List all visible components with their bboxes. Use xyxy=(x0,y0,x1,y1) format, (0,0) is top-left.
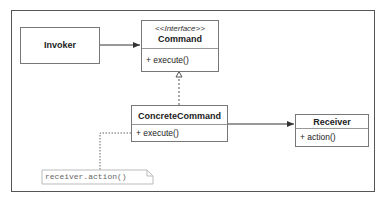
realization-triangle-icon xyxy=(176,72,182,78)
class-name: ConcreteCommand xyxy=(132,111,227,121)
class-command[interactable]: <<Interface>> Command + execute() xyxy=(141,20,219,72)
class-name: Invoker xyxy=(21,28,99,63)
class-name: Command xyxy=(142,34,218,44)
class-name: Receiver xyxy=(296,117,368,127)
stereotype-label: <<Interface>> xyxy=(142,24,218,33)
divider xyxy=(142,48,218,49)
note-connector xyxy=(100,133,131,170)
divider xyxy=(132,124,227,125)
operation: + action() xyxy=(300,132,336,142)
note-text: receiver.action() xyxy=(45,172,127,181)
class-concrete-command[interactable]: ConcreteCommand + execute() xyxy=(131,105,228,142)
class-invoker[interactable]: Invoker xyxy=(20,27,100,64)
divider xyxy=(296,128,368,129)
class-receiver[interactable]: Receiver + action() xyxy=(295,114,369,147)
operation: + execute() xyxy=(136,128,179,138)
operation: + execute() xyxy=(146,55,189,65)
